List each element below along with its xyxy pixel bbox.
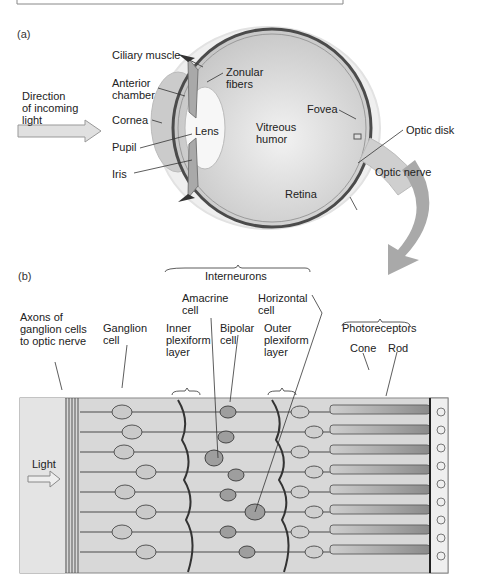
top-frame-line <box>17 0 343 4</box>
interneurons-label: Interneurons <box>205 270 267 282</box>
pupil-label: Pupil <box>112 141 136 153</box>
anterior-chamber-label: Anterior chamber <box>112 77 155 101</box>
panel-b-tag: (b) <box>18 270 31 282</box>
panel-a-tag: (a) <box>17 28 30 40</box>
light-label: Light <box>32 458 56 470</box>
amacrine-cell-label: Amacrine cell <box>182 292 228 316</box>
horizontal-cell-label: Horizontal cell <box>258 292 308 316</box>
direction-of-light-label: Direction of incoming light <box>22 90 78 126</box>
ganglion-cell-label: Ganglion cell <box>103 322 147 346</box>
zonular-fibers-label: Zonular fibers <box>226 66 263 90</box>
cone-label: Cone <box>350 342 376 354</box>
rod-label: Rod <box>388 342 408 354</box>
lens-label: Lens <box>195 125 219 137</box>
optic-nerve-label: Optic nerve <box>375 166 431 178</box>
cornea-label: Cornea <box>112 114 148 126</box>
optic-disk-label: Optic disk <box>406 124 454 136</box>
bipolar-cell-label: Bipolar cell <box>220 322 254 346</box>
vitreous-humor-label: Vitreous humor <box>256 121 296 145</box>
ciliary-muscle-label: Ciliary muscle <box>112 49 180 61</box>
outer-plexiform-label: Outer plexiform layer <box>264 322 309 358</box>
inner-plexiform-label: Inner plexiform layer <box>166 322 211 358</box>
axons-label: Axons of ganglion cells to optic nerve <box>20 311 87 347</box>
fovea-label: Fovea <box>307 103 338 115</box>
retina-label: Retina <box>285 188 317 200</box>
iris-label: Iris <box>112 168 127 180</box>
retina-cross-section <box>20 398 448 573</box>
photoreceptors-label: Photoreceptors <box>342 322 417 334</box>
